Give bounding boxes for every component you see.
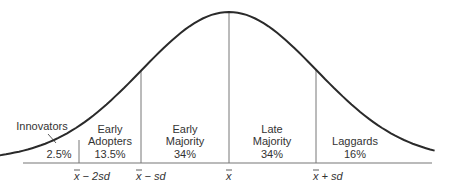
svg-text:x − 2sd: x − 2sd xyxy=(73,170,111,182)
tick-label-mean: x xyxy=(225,170,232,182)
tick-label-mean-minus-2sd: x − 2sd xyxy=(73,170,111,182)
tick-suffix: − 2sd xyxy=(80,170,111,182)
segment-label-early-adopters-line2: Adopters xyxy=(88,135,133,147)
segment-percent-innovators: 2.5% xyxy=(46,148,71,160)
x-bar-symbol: x xyxy=(225,170,232,182)
adopter-distribution-diagram: Innovators 2.5% Early Adopters 13.5% Ear… xyxy=(0,0,453,189)
svg-text:x: x xyxy=(225,170,232,182)
segment-percent-late-majority: 34% xyxy=(261,148,283,160)
segment-label-laggards: Laggards xyxy=(332,135,378,147)
tick-suffix: + sd xyxy=(319,170,344,182)
segment-label-early-adopters-line1: Early xyxy=(97,123,123,135)
segment-label-early-majority-line1: Early xyxy=(172,123,198,135)
tick-suffix: − sd xyxy=(142,170,167,182)
segment-label-late-majority-line2: Majority xyxy=(253,135,292,147)
segment-label-innovators: Innovators xyxy=(16,120,68,132)
segment-percent-early-majority: 34% xyxy=(174,148,196,160)
tick-label-mean-minus-sd: x − sd xyxy=(135,170,167,182)
segment-percent-laggards: 16% xyxy=(344,148,366,160)
segment-percent-early-adopters: 13.5% xyxy=(94,148,125,160)
svg-text:x + sd: x + sd xyxy=(312,170,344,182)
segment-label-early-majority-line2: Majority xyxy=(166,135,205,147)
svg-text:x − sd: x − sd xyxy=(135,170,167,182)
tick-label-mean-plus-sd: x + sd xyxy=(312,170,344,182)
segment-label-late-majority-line1: Late xyxy=(261,123,282,135)
